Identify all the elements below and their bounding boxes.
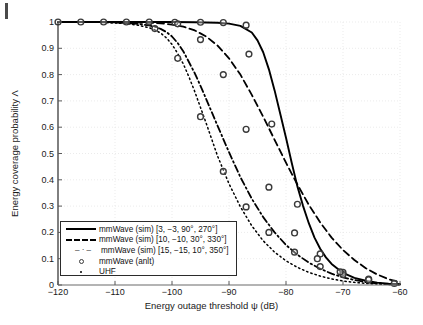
legend-line-dashed-icon: [64, 235, 98, 245]
y-tick-label: 1: [22, 17, 54, 27]
data-point-marker: [220, 72, 226, 78]
legend-label-4: UHF: [99, 267, 116, 276]
data-point-marker: [243, 204, 249, 210]
x-tick-label: −80: [278, 287, 293, 297]
data-point-marker: [292, 230, 298, 236]
y-tick-label: 0.9: [22, 43, 54, 53]
legend-item-4: UHF: [61, 266, 236, 277]
y-tick-label: 0.8: [22, 70, 54, 80]
data-point-marker: [146, 19, 152, 25]
data-point-marker: [78, 19, 84, 25]
data-point-marker: [366, 277, 372, 283]
legend-item-1: mmWave (sim) [10, −10, 30°, 330°]: [61, 235, 236, 246]
legend-item-0: mmWave (sim) [3, −3, 90°, 270°]: [61, 224, 236, 235]
y-tick-label: 0: [22, 280, 54, 290]
legend-item-3: mmWave (anlt): [61, 256, 236, 267]
data-point-marker: [317, 264, 323, 270]
data-point-marker: [243, 126, 249, 132]
y-tick-label: 0.5: [22, 149, 54, 159]
legend-label-3: mmWave (anlt): [99, 257, 154, 266]
y-tick-label: 0.1: [22, 254, 54, 264]
data-point-marker: [198, 114, 204, 120]
data-point-marker: [314, 256, 320, 262]
y-tick-label: 0.7: [22, 96, 54, 106]
legend-label-0: mmWave (sim) [3, −3, 90°, 270°]: [99, 225, 217, 234]
y-axis-label: Energy coverage probability Λ: [9, 54, 20, 254]
legend-line-solid-icon: [64, 224, 98, 234]
data-point-marker: [292, 249, 298, 255]
data-point-marker: [220, 168, 226, 174]
data-point-marker: [295, 201, 301, 207]
data-point-marker: [243, 22, 249, 28]
chart-legend: mmWave (sim) [3, −3, 90°, 270°] mmWave (…: [60, 221, 237, 276]
data-point-marker: [175, 55, 181, 61]
legend-line-dashdot-icon: – · –: [64, 245, 100, 255]
legend-dot-marker-icon: [64, 267, 98, 277]
data-point-marker: [266, 230, 272, 236]
y-tick-label: 0.4: [22, 175, 54, 185]
data-point-marker: [220, 20, 226, 26]
data-point-marker: [198, 19, 204, 25]
y-tick-label: 0.2: [22, 227, 54, 237]
legend-item-2: – · – mmWave (sim) [15, −15, 10°, 350°]: [61, 245, 236, 256]
data-point-marker: [175, 21, 181, 27]
y-tick-label: 0.3: [22, 201, 54, 211]
data-point-marker: [337, 269, 343, 275]
data-point-marker: [198, 37, 204, 43]
x-tick-label: −90: [221, 287, 236, 297]
x-tick-label: −70: [335, 287, 350, 297]
x-tick-label: −110: [105, 287, 125, 297]
data-point-marker: [152, 26, 158, 32]
x-tick-label: −100: [162, 287, 182, 297]
data-point-marker: [124, 19, 130, 25]
data-point-marker: [246, 51, 252, 57]
legend-circle-marker-icon: [64, 256, 98, 266]
legend-label-2: mmWave (sim) [15, −15, 10°, 350°]: [101, 246, 229, 255]
x-tick-label: −60: [392, 287, 407, 297]
data-point-marker: [269, 121, 275, 127]
y-tick-label: 0.6: [22, 122, 54, 132]
figure-container: −120−110−100−90−80−70−6000.10.20.30.40.5…: [0, 0, 423, 325]
x-axis-label: Energy outage threshold ψ (dB): [0, 300, 423, 311]
legend-label-1: mmWave (sim) [10, −10, 30°, 330°]: [99, 235, 227, 244]
data-point-marker: [101, 19, 107, 25]
data-point-marker: [266, 184, 272, 190]
